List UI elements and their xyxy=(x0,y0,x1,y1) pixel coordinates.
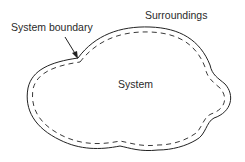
system-boundary-label: System boundary xyxy=(11,22,93,33)
system-label: System xyxy=(118,79,153,90)
arrowhead-icon xyxy=(72,51,78,59)
surroundings-label: Surroundings xyxy=(145,10,207,21)
